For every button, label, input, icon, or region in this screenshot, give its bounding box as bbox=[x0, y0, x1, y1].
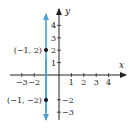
x-tick-label: 2 bbox=[81, 78, 86, 87]
y-tick-label: −2 bbox=[62, 96, 74, 105]
y-axis-label: y bbox=[64, 6, 71, 16]
y-tick-label: −3 bbox=[62, 108, 74, 117]
x-tick-label: −2 bbox=[28, 78, 40, 87]
y-tick-label: 2 bbox=[51, 46, 56, 55]
y-ticks: 4321−2−3 bbox=[51, 21, 74, 117]
y-tick-label: 4 bbox=[51, 21, 56, 30]
graph-figure: −3−21234 4321−2−3 x y (−1, 2) (−1, −2) bbox=[0, 0, 130, 129]
point-neg1-neg2 bbox=[44, 98, 48, 102]
x-axis-label: x bbox=[119, 60, 124, 70]
point-label-neg1-2: (−1, 2) bbox=[14, 46, 42, 55]
x-tick-label: 1 bbox=[69, 78, 74, 87]
x-tick-label: 4 bbox=[106, 78, 111, 87]
coordinate-plane: −3−21234 4321−2−3 x y (−1, 2) (−1, −2) bbox=[0, 0, 130, 129]
y-tick-label: 1 bbox=[51, 59, 56, 68]
y-tick-label: 3 bbox=[51, 34, 56, 43]
x-tick-label: 3 bbox=[94, 78, 99, 87]
point-label-neg1-neg2: (−1, −2) bbox=[7, 96, 42, 105]
point-neg1-2 bbox=[44, 48, 48, 52]
x-tick-label: −3 bbox=[16, 78, 28, 87]
